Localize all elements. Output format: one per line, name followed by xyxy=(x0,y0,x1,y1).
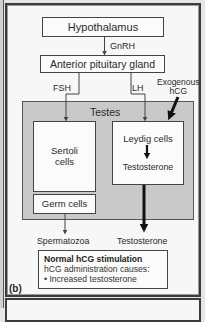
next-panel-edge xyxy=(5,298,201,322)
info-subtitle: hCG administration causes: xyxy=(44,264,162,274)
fsh-arrow xyxy=(66,73,79,119)
info-title: Normal hCG stimulation xyxy=(44,254,162,264)
exogenous-hcg-arrow xyxy=(170,97,178,116)
panel-label: (b) xyxy=(9,283,22,294)
lh-arrow xyxy=(131,73,145,119)
info-box: Normal hCG stimulation hCG administratio… xyxy=(38,250,168,289)
info-bullet: • Increased testosterone xyxy=(44,274,162,284)
